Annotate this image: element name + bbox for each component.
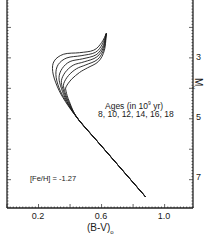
x-tick-label: 0.6 (95, 211, 108, 221)
y-tick-label: 7 (196, 172, 201, 182)
x-tick-label: 1.0 (158, 211, 171, 221)
y-tick-label: 3 (196, 52, 201, 62)
y-axis-label: Mv (189, 78, 203, 89)
x-axis-label: (B-V)o (87, 223, 114, 236)
x-tick-label: 0.2 (32, 211, 45, 221)
metallicity-annotation: [Fe/H] = -1.27 (30, 174, 76, 184)
ages-annotation-line2: 8, 10, 12, 14, 16, 18 (98, 109, 174, 119)
y-tick-label: 5 (196, 112, 201, 122)
